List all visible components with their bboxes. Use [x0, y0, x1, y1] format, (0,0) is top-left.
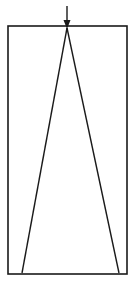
- load-diagram: [0, 0, 138, 284]
- block-rectangle: [8, 26, 127, 274]
- right-diagonal-line: [67, 28, 119, 273]
- arrow-head-icon: [64, 20, 71, 29]
- left-diagonal-line: [22, 28, 67, 273]
